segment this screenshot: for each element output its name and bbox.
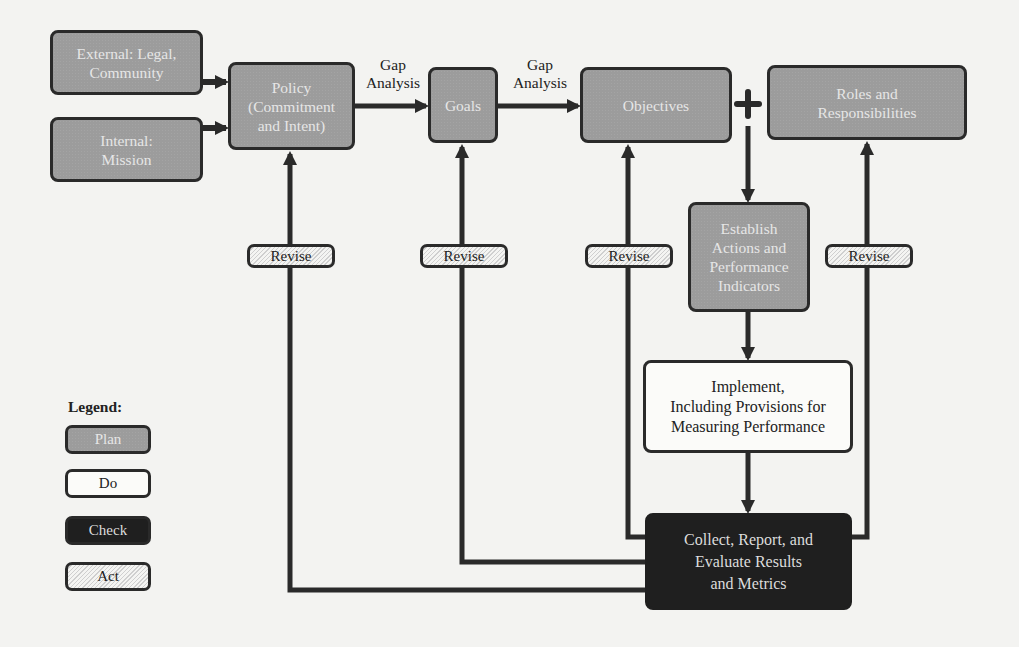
node-label: Roles and <box>817 84 916 103</box>
node-label: and Metrics <box>684 573 813 595</box>
node-label: Performance <box>709 257 788 276</box>
edge-label-line: Gap <box>360 56 426 74</box>
feedback-to-objectives <box>628 147 645 537</box>
legend-item-act: Act <box>65 562 151 591</box>
revise-text: Revise <box>444 248 485 265</box>
legend-item-check: Check <box>65 516 151 545</box>
edge-label-line: Analysis <box>360 74 426 92</box>
legend-item-plan: Plan <box>65 425 151 454</box>
revise-text: Revise <box>609 248 650 265</box>
node-label: Including Provisions for <box>670 397 826 417</box>
plus-icon <box>737 92 759 116</box>
node-establish-actions: Establish Actions and Performance Indica… <box>688 202 810 312</box>
revise-label-policy: Revise <box>247 244 335 268</box>
node-label: Internal: <box>100 131 153 150</box>
feedback-to-goals <box>462 147 645 562</box>
node-external-legal-community: External: Legal, Community <box>50 30 203 95</box>
revise-label-roles: Revise <box>825 244 913 268</box>
node-policy: Policy (Commitment and Intent) <box>228 62 355 150</box>
revise-text: Revise <box>849 248 890 265</box>
node-label: Indicators <box>709 276 788 295</box>
node-label: Objectives <box>623 96 689 115</box>
node-collect-report-evaluate: Collect, Report, and Evaluate Results an… <box>645 513 852 610</box>
node-label: and Intent) <box>248 116 335 135</box>
revise-text: Revise <box>271 248 312 265</box>
node-label: Establish <box>709 219 788 238</box>
node-label: Measuring Performance <box>670 417 826 437</box>
legend-title: Legend: <box>68 398 122 416</box>
node-roles-and-responsibilities: Roles and Responsibilities <box>767 65 967 140</box>
legend-label: Do <box>99 475 117 492</box>
revise-label-objectives: Revise <box>585 244 673 268</box>
node-label: Actions and <box>709 238 788 257</box>
node-label: Goals <box>445 96 481 115</box>
node-label: Community <box>77 63 177 82</box>
legend-label: Plan <box>95 431 122 448</box>
edge-label-line: Gap <box>503 56 577 74</box>
node-goals: Goals <box>428 67 498 143</box>
node-objectives: Objectives <box>580 67 732 143</box>
node-label: (Commitment <box>248 97 335 116</box>
feedback-to-policy <box>290 154 645 590</box>
node-internal-mission: Internal: Mission <box>50 117 203 182</box>
edge-label-line: Analysis <box>503 74 577 92</box>
node-label: Implement, <box>670 377 826 397</box>
edge-label-gap-analysis-2: Gap Analysis <box>503 56 577 92</box>
feedback-to-roles <box>852 144 867 537</box>
revise-label-goals: Revise <box>420 244 508 268</box>
node-label: Policy <box>248 78 335 97</box>
node-label: Evaluate Results <box>684 551 813 573</box>
legend-item-do: Do <box>65 469 151 498</box>
node-label: External: Legal, <box>77 44 177 63</box>
legend-label: Check <box>89 522 127 539</box>
node-label: Collect, Report, and <box>684 529 813 551</box>
edge-label-gap-analysis-1: Gap Analysis <box>360 56 426 92</box>
legend-label: Act <box>97 568 119 585</box>
node-implement: Implement, Including Provisions for Meas… <box>643 360 853 453</box>
node-label: Responsibilities <box>817 103 916 122</box>
node-label: Mission <box>100 150 153 169</box>
